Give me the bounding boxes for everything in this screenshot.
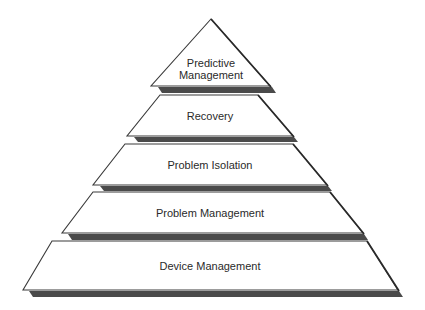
tier-shadow xyxy=(100,186,332,191)
tier-label-line2: Management xyxy=(179,69,243,81)
tier-predictive-management xyxy=(151,19,276,93)
tier-label-recovery: Recovery xyxy=(187,110,233,122)
tier-label-problem-isolation: Problem Isolation xyxy=(168,159,253,171)
tier-shadow xyxy=(29,291,403,297)
tier-shadow xyxy=(158,87,276,93)
tier-label-line1: Predictive xyxy=(179,57,243,69)
tier-shadow xyxy=(134,137,298,142)
tier-label-device-management: Device Management xyxy=(160,260,261,272)
tier-shadow xyxy=(68,234,368,240)
tier-label-predictive-management: Predictive Management xyxy=(179,57,243,81)
tier-label-problem-management: Problem Management xyxy=(156,207,264,219)
